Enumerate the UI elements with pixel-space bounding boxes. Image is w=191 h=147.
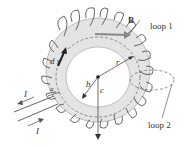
label-b: b — [86, 80, 91, 89]
label-c: c — [100, 86, 104, 95]
label-b-field: B — [128, 16, 134, 25]
label-loop-1: loop 1 — [150, 22, 173, 31]
label-current-out: I — [36, 127, 39, 136]
label-a: a — [50, 86, 54, 93]
label-ds: d s — [50, 57, 60, 66]
radius-r — [98, 57, 132, 77]
label-current-in: I — [24, 90, 27, 99]
label-r: r — [116, 58, 120, 67]
b-field-arrow — [95, 34, 128, 35]
label-loop-2: loop 2 — [148, 121, 171, 130]
